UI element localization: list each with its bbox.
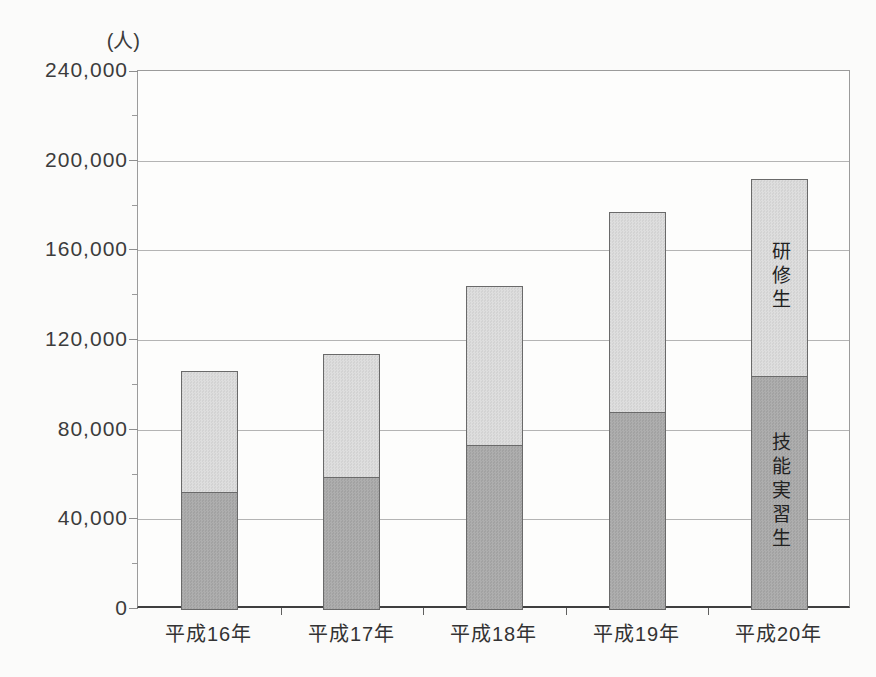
y-major-tick xyxy=(129,160,138,161)
y-tick-label: 40,000 xyxy=(0,507,128,529)
y-minor-tick xyxy=(132,384,138,385)
label-kenshuusei: 研修生 xyxy=(767,241,794,313)
y-tick-label: 240,000 xyxy=(0,59,128,81)
y-major-tick xyxy=(129,608,138,609)
x-axis-tick xyxy=(281,608,282,615)
y-tick-label: 0 xyxy=(0,597,128,619)
x-category-label: 平成17年 xyxy=(280,618,423,647)
y-tick-label: 80,000 xyxy=(0,418,128,440)
y-tick-label: 160,000 xyxy=(0,238,128,260)
x-axis-tick xyxy=(423,608,424,615)
y-minor-tick xyxy=(132,205,138,206)
x-category-label: 平成16年 xyxy=(137,618,280,647)
x-axis-tick xyxy=(708,608,709,615)
label-ginou-jisshuusei: 技能実習生 xyxy=(767,432,794,552)
bar-segment-bottom xyxy=(466,445,523,610)
bar-segment-bottom xyxy=(609,412,666,610)
y-tick-label: 200,000 xyxy=(0,149,128,171)
plot-area: 研修生技能実習生 xyxy=(137,70,850,608)
bar-segment-top xyxy=(181,371,238,493)
x-category-label: 平成19年 xyxy=(565,618,708,647)
x-axis-tick xyxy=(566,608,567,615)
y-major-tick xyxy=(129,339,138,340)
y-major-tick xyxy=(129,71,138,72)
y-major-tick xyxy=(129,429,138,430)
y-major-tick xyxy=(129,518,138,519)
y-tick-label: 120,000 xyxy=(0,328,128,350)
x-category-label: 平成18年 xyxy=(422,618,565,647)
gridline xyxy=(138,250,849,251)
y-major-tick xyxy=(129,249,138,250)
y-minor-tick xyxy=(132,115,138,116)
bar-segment-bottom xyxy=(323,477,380,610)
bar-segment-top xyxy=(323,354,380,478)
bar-segment-top xyxy=(609,212,666,413)
y-minor-tick xyxy=(132,563,138,564)
gridline xyxy=(138,161,849,162)
y-minor-tick xyxy=(132,294,138,295)
bar-segment-top xyxy=(466,286,523,446)
bar-segment-bottom xyxy=(181,492,238,610)
y-axis-unit-label: (人) xyxy=(0,25,140,54)
y-minor-tick xyxy=(132,474,138,475)
stacked-bar-chart-figure: (人) 研修生技能実習生 040,00080,000120,000160,000… xyxy=(0,0,876,677)
x-category-label: 平成20年 xyxy=(707,618,850,647)
